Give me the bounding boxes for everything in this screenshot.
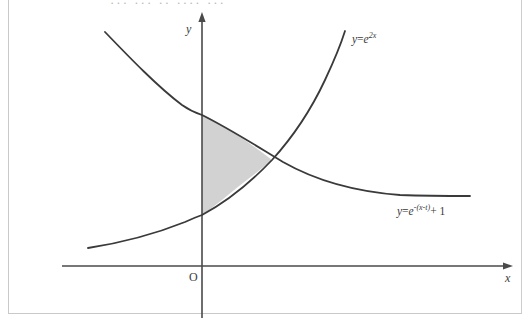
plot-canvas	[0, 0, 530, 328]
shaded-region-path	[202, 114, 272, 216]
curve-exp-neg-x-plus-1	[105, 32, 470, 196]
y-axis-arrowhead	[198, 12, 205, 22]
x-axis-arrowhead	[503, 262, 513, 269]
y-axis-label: y	[186, 22, 191, 37]
curve-label-exp-2x: y=e2x	[352, 33, 376, 45]
origin-label: O	[189, 270, 198, 285]
x-axis-label: x	[505, 271, 510, 286]
curve-label-suffix: + 1	[430, 205, 445, 217]
curve-label-exp-neg-x: y=e-(x-t)+ 1	[397, 205, 445, 217]
curve-label-exponent: 2x	[369, 31, 377, 40]
exponential-curves-figure: ··· ··· ·· ···· ··· y x O y=e2x y=e-(x-t…	[0, 0, 530, 328]
curve-label-exponent: -(x-t)	[414, 203, 430, 212]
